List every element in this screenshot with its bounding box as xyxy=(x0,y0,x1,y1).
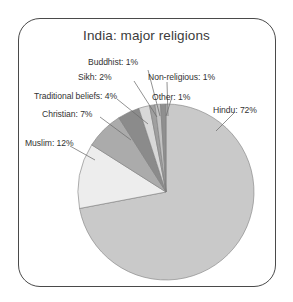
pie-slice-buddhist xyxy=(150,105,166,192)
leader-line-christian xyxy=(100,117,131,140)
leader-line-hindu xyxy=(216,113,234,131)
pie-slice-other xyxy=(160,104,166,192)
pie-graphic xyxy=(0,0,293,302)
slice-label-traditional: Traditional beliefs: 4% xyxy=(34,91,117,101)
pie-slices xyxy=(78,104,254,280)
slice-label-sikh: Sikh: 2% xyxy=(78,72,112,82)
slice-label-hindu: Hindu: 72% xyxy=(213,105,257,115)
pie-slice-christian xyxy=(92,118,166,192)
slice-label-christian: Christian: 7% xyxy=(42,109,92,119)
slice-label-other: Other: 1% xyxy=(152,92,190,102)
leader-line-muslim xyxy=(70,146,95,160)
pie-slice-muslim xyxy=(78,145,166,209)
slice-label-nonreligious: Non-religious: 1% xyxy=(148,72,215,82)
leader-line-traditional xyxy=(117,99,148,124)
leader-lines xyxy=(70,70,234,160)
chart-title: India: major religions xyxy=(0,28,293,43)
leader-line-other xyxy=(166,100,171,116)
pie-slice-non-religious xyxy=(155,104,166,192)
pie-chart-figure: India: major religions Buddhist: 1% Sikh… xyxy=(0,0,293,302)
pie-slice-sikh xyxy=(139,106,166,192)
slice-label-buddhist: Buddhist: 1% xyxy=(88,57,138,67)
slice-label-muslim: Muslim: 12% xyxy=(25,138,74,148)
pie-slice-hindu xyxy=(80,104,254,280)
pie-slice-traditional-beliefs xyxy=(119,108,166,192)
